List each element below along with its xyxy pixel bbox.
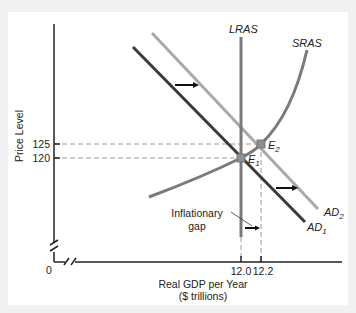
ad1-label: AD1 — [306, 221, 327, 236]
arrowhead-icon — [255, 226, 260, 231]
equilibrium-point-e1 — [237, 154, 245, 162]
ad2-label-base: AD — [323, 206, 339, 218]
ad2-label: AD2 — [323, 206, 344, 221]
ad2-curve — [152, 33, 318, 209]
y-axis-break-mark — [50, 246, 58, 251]
ad1-label-base: AD — [306, 221, 322, 233]
y-tick-label-120: 120 — [32, 152, 50, 164]
lras-label: LRAS — [229, 23, 258, 35]
inflationary-gap-label-line2: gap — [188, 220, 206, 232]
sras-curve — [149, 50, 307, 197]
x-tick-label-12-0: 12.0 — [231, 265, 252, 277]
y-axis-label: Price Level — [13, 110, 25, 162]
x-axis-label-line1: Real GDP per Year — [158, 278, 248, 290]
e2-label-sub: 2 — [274, 145, 280, 154]
ad1-label-sub: 1 — [322, 227, 326, 236]
sras-label: SRAS — [292, 37, 323, 49]
y-tick-label-125: 125 — [32, 138, 50, 150]
x-axis-label-line2: ($ trillions) — [179, 290, 227, 302]
ad1-curve — [133, 47, 305, 222]
e1-label-sub: 1 — [255, 159, 259, 168]
ad-as-diagram: LRAS SRAS E2 E1 AD2 AD1 Inflationary gap… — [0, 0, 356, 313]
ad2-label-sub: 2 — [338, 212, 344, 221]
origin-label: 0 — [46, 264, 52, 276]
e2-label: E2 — [268, 139, 280, 154]
equilibrium-point-e2 — [257, 140, 265, 148]
x-tick-label-12-2: 12.2 — [253, 265, 274, 277]
inflationary-gap-label-line1: Inflationary — [171, 207, 223, 219]
